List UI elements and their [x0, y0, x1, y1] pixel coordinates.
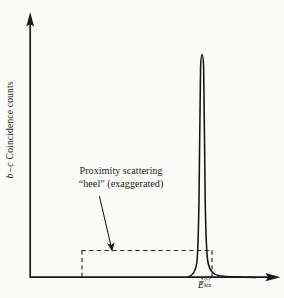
plot-canvas: [0, 0, 284, 298]
coincidence-spectrum-curve: [188, 55, 256, 278]
axis-lines: [26, 12, 280, 281]
leader-line-shaft: [100, 197, 112, 247]
figure-panel: b–c Coincidence counts E (c) kin Proximi…: [0, 0, 284, 298]
annotation-leader-line: [100, 197, 115, 252]
